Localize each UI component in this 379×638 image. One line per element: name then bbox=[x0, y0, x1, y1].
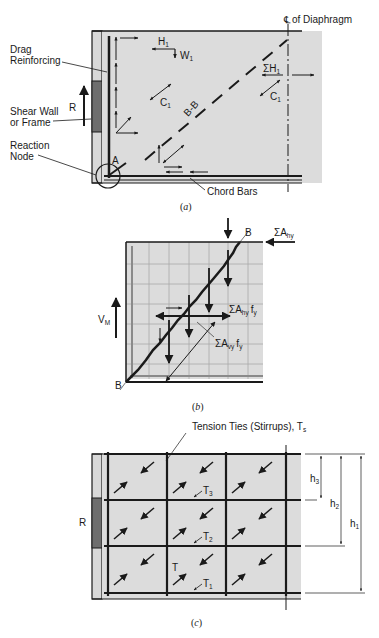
figure-a: Drag Reinforcing Shear Wall or Frame Rea… bbox=[10, 14, 352, 213]
label-vm: VM bbox=[98, 314, 110, 326]
shear-wall-c bbox=[92, 498, 102, 548]
diaphragm-panel bbox=[102, 31, 322, 183]
label-chord-bars: Chord Bars bbox=[207, 186, 258, 197]
centerline-icon: ℄ bbox=[283, 14, 291, 25]
label-h3: h3 bbox=[310, 473, 320, 485]
caption-b: (b) bbox=[192, 401, 204, 413]
label-h2: h2 bbox=[330, 498, 340, 510]
label-a: A bbox=[112, 155, 119, 166]
figure-b: B B ΣAhy VM ΣAhyfy ΣAvyfy (b) bbox=[98, 218, 295, 413]
label-centerline: ℄of Diaphragm bbox=[283, 14, 352, 25]
structural-diagram: Drag Reinforcing Shear Wall or Frame Rea… bbox=[0, 0, 379, 638]
label-reinforcing: Reinforcing bbox=[10, 55, 61, 66]
label-or-frame: or Frame bbox=[10, 117, 51, 128]
label-node: Node bbox=[10, 151, 34, 162]
shear-wall bbox=[92, 81, 102, 132]
caption-a: (a) bbox=[180, 201, 192, 213]
label-tension-ties: Tension Ties (Stirrups), Ts bbox=[192, 421, 307, 433]
label-drag: Drag bbox=[10, 44, 32, 55]
label-h1: h1 bbox=[350, 518, 360, 530]
figure-c: Tension Ties (Stirrups), Ts R T T3 T2 T1… bbox=[79, 421, 365, 629]
label-reaction: Reaction bbox=[10, 140, 49, 151]
panel-c bbox=[102, 454, 301, 599]
label-b-bottom: B bbox=[115, 380, 122, 391]
caption-c: (c) bbox=[191, 617, 202, 629]
label-r-c: R bbox=[79, 517, 86, 528]
label-sum-ahy: ΣAhy bbox=[274, 227, 294, 240]
label-t: T bbox=[172, 562, 178, 573]
label-b-top: B bbox=[245, 227, 252, 238]
label-shear-wall: Shear Wall bbox=[10, 106, 59, 117]
label-r: R bbox=[69, 102, 76, 113]
